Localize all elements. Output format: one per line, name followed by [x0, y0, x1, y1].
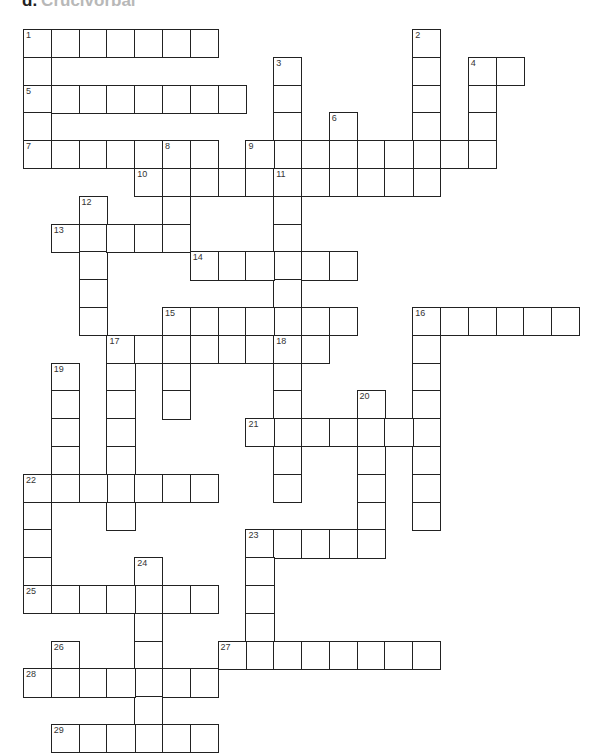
crossword-cell[interactable]: 22	[23, 474, 52, 503]
crossword-cell[interactable]	[245, 251, 274, 280]
crossword-cell[interactable]	[79, 29, 108, 58]
crossword-cell[interactable]	[273, 307, 302, 336]
crossword-cell[interactable]	[329, 140, 358, 169]
crossword-cell[interactable]	[190, 474, 219, 503]
crossword-cell[interactable]	[301, 418, 330, 447]
crossword-cell[interactable]	[273, 112, 302, 141]
crossword-cell[interactable]	[273, 446, 302, 475]
crossword-cell[interactable]	[162, 474, 191, 503]
crossword-cell[interactable]	[496, 307, 525, 336]
crossword-cell[interactable]	[357, 641, 386, 670]
crossword-cell[interactable]	[134, 224, 163, 253]
crossword-cell[interactable]	[468, 307, 497, 336]
crossword-cell[interactable]: 27	[218, 641, 247, 670]
crossword-cell[interactable]	[301, 529, 330, 558]
crossword-cell[interactable]: 15	[162, 307, 191, 336]
crossword-cell[interactable]	[357, 168, 386, 197]
crossword-cell[interactable]	[357, 446, 386, 475]
crossword-cell[interactable]	[79, 224, 108, 253]
crossword-cell[interactable]: 11	[273, 168, 302, 197]
crossword-cell[interactable]	[329, 641, 358, 670]
crossword-cell[interactable]	[329, 529, 358, 558]
crossword-cell[interactable]	[273, 363, 302, 392]
crossword-cell[interactable]	[523, 307, 552, 336]
crossword-cell[interactable]	[245, 557, 274, 586]
crossword-cell[interactable]	[357, 474, 386, 503]
crossword-cell[interactable]	[190, 724, 219, 753]
crossword-cell[interactable]	[273, 140, 302, 169]
crossword-cell[interactable]: 28	[23, 668, 52, 697]
crossword-cell[interactable]	[23, 557, 52, 586]
crossword-cell[interactable]	[106, 85, 135, 114]
crossword-cell[interactable]	[329, 307, 358, 336]
crossword-cell[interactable]	[301, 168, 330, 197]
crossword-cell[interactable]: 16	[412, 307, 441, 336]
crossword-cell[interactable]: 5	[23, 85, 52, 114]
crossword-cell[interactable]	[245, 613, 274, 642]
crossword-cell[interactable]	[273, 251, 302, 280]
crossword-cell[interactable]	[79, 585, 108, 614]
crossword-cell[interactable]	[190, 168, 219, 197]
crossword-cell[interactable]	[106, 224, 135, 253]
crossword-cell[interactable]	[79, 724, 108, 753]
crossword-cell[interactable]	[106, 418, 135, 447]
crossword-cell[interactable]	[51, 85, 80, 114]
crossword-cell[interactable]	[134, 668, 163, 697]
crossword-cell[interactable]	[134, 696, 163, 725]
crossword-cell[interactable]	[162, 196, 191, 225]
crossword-cell[interactable]	[162, 668, 191, 697]
crossword-cell[interactable]	[162, 85, 191, 114]
crossword-cell[interactable]	[496, 57, 525, 86]
crossword-cell[interactable]	[162, 29, 191, 58]
crossword-cell[interactable]	[329, 418, 358, 447]
crossword-cell[interactable]	[412, 390, 441, 419]
crossword-cell[interactable]: 21	[245, 418, 274, 447]
crossword-cell[interactable]	[162, 363, 191, 392]
crossword-cell[interactable]	[468, 140, 497, 169]
crossword-cell[interactable]	[245, 641, 274, 670]
crossword-cell[interactable]	[190, 85, 219, 114]
crossword-cell[interactable]	[357, 529, 386, 558]
crossword-cell[interactable]	[412, 85, 441, 114]
crossword-cell[interactable]	[134, 613, 163, 642]
crossword-cell[interactable]	[440, 307, 469, 336]
crossword-cell[interactable]: 20	[357, 390, 386, 419]
crossword-cell[interactable]	[551, 307, 580, 336]
crossword-cell[interactable]: 13	[51, 224, 80, 253]
crossword-cell[interactable]: 24	[134, 557, 163, 586]
crossword-cell[interactable]	[106, 668, 135, 697]
crossword-cell[interactable]	[440, 140, 469, 169]
crossword-cell[interactable]	[468, 112, 497, 141]
crossword-cell[interactable]	[51, 29, 80, 58]
crossword-cell[interactable]	[162, 335, 191, 364]
crossword-cell[interactable]	[162, 168, 191, 197]
crossword-cell[interactable]	[23, 112, 52, 141]
crossword-cell[interactable]	[301, 140, 330, 169]
crossword-cell[interactable]	[412, 418, 441, 447]
crossword-cell[interactable]	[190, 335, 219, 364]
crossword-cell[interactable]: 4	[468, 57, 497, 86]
crossword-cell[interactable]	[79, 279, 108, 308]
crossword-cell[interactable]	[79, 251, 108, 280]
crossword-cell[interactable]: 18	[273, 335, 302, 364]
crossword-cell[interactable]	[134, 641, 163, 670]
crossword-cell[interactable]	[51, 668, 80, 697]
crossword-cell[interactable]	[273, 390, 302, 419]
crossword-cell[interactable]	[384, 418, 413, 447]
crossword-cell[interactable]	[329, 168, 358, 197]
crossword-cell[interactable]	[301, 251, 330, 280]
crossword-cell[interactable]: 10	[134, 168, 163, 197]
crossword-cell[interactable]: 25	[23, 585, 52, 614]
crossword-cell[interactable]	[134, 585, 163, 614]
crossword-cell[interactable]	[23, 502, 52, 531]
crossword-cell[interactable]	[79, 140, 108, 169]
crossword-cell[interactable]	[106, 446, 135, 475]
crossword-cell[interactable]: 26	[51, 641, 80, 670]
crossword-cell[interactable]	[134, 85, 163, 114]
crossword-cell[interactable]: 23	[245, 529, 274, 558]
crossword-cell[interactable]	[245, 585, 274, 614]
crossword-cell[interactable]	[51, 418, 80, 447]
crossword-cell[interactable]	[273, 418, 302, 447]
crossword-cell[interactable]	[134, 140, 163, 169]
crossword-cell[interactable]	[218, 307, 247, 336]
